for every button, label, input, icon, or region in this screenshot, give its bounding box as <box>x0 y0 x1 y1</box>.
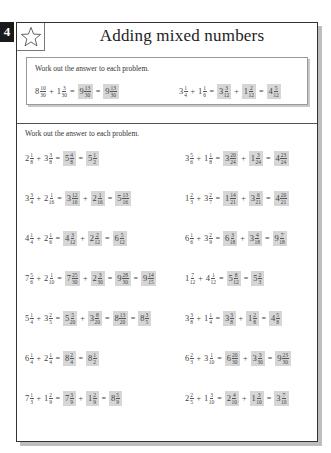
fraction: 2330 <box>282 352 289 365</box>
numerator: 7 <box>282 392 286 399</box>
fraction: 1330 <box>110 85 117 98</box>
denominator: 12 <box>233 279 239 285</box>
mixed-number: 356 <box>185 152 194 165</box>
denominator: 6 <box>49 239 52 245</box>
denominator: 9 <box>116 399 119 405</box>
plus-sign: + <box>49 87 54 96</box>
fraction: 56 <box>30 272 34 285</box>
numerator: 10 <box>40 85 47 92</box>
answer-box: 523 <box>251 271 264 286</box>
fraction: 1415 <box>148 272 155 285</box>
expression: 123+327=11421+3621=42021 <box>185 191 289 206</box>
whole-part: 3 <box>276 393 280 403</box>
whole-part: 1 <box>248 313 252 323</box>
mixed-number: 92330 <box>277 352 288 365</box>
plus-sign: + <box>240 234 245 243</box>
whole-part: 2 <box>44 233 48 243</box>
denominator: 8 <box>49 159 52 165</box>
fraction: 418 <box>255 232 261 245</box>
mixed-number: 214 <box>44 352 53 365</box>
problem: 756+2110=72530+2330=92830=91415 <box>25 267 156 286</box>
plus-sign: + <box>241 194 246 203</box>
mixed-number: 91415 <box>143 272 154 285</box>
denominator: 18 <box>255 239 261 245</box>
numerator: 5 <box>276 312 280 319</box>
fraction: 112 <box>211 272 217 285</box>
mixed-number: 327 <box>204 192 213 205</box>
denominator: 16 <box>49 199 55 205</box>
whole-part: 5 <box>25 313 29 323</box>
numerator: 1 <box>211 272 215 279</box>
denominator: 30 <box>97 279 103 285</box>
whole-part: 9 <box>80 86 84 96</box>
numerator: 2 <box>95 232 99 239</box>
whole-part: 2 <box>93 273 97 283</box>
whole-part: 3 <box>225 313 229 323</box>
denominator: 30 <box>111 92 117 98</box>
answer-box: 3418 <box>248 231 262 246</box>
mixed-number: 623 <box>185 352 194 365</box>
fraction: 116 <box>49 192 55 205</box>
numerator: 14 <box>148 272 155 279</box>
fraction: 16 <box>49 232 53 245</box>
whole-part: 3 <box>250 233 254 243</box>
mixed-number: 512 <box>88 152 97 165</box>
numerator: 23 <box>282 352 289 359</box>
fraction: 212 <box>95 232 101 245</box>
fraction: 1421 <box>230 192 237 205</box>
denominator: 10 <box>49 279 55 285</box>
denominator: 10 <box>256 399 262 405</box>
denominator: 6 <box>190 159 193 165</box>
mixed-number: 218 <box>25 152 34 165</box>
plus-sign: + <box>37 234 42 243</box>
fraction: 1330 <box>84 85 91 98</box>
whole-part: 1 <box>204 393 208 403</box>
denominator: 20 <box>70 319 76 325</box>
mixed-number: 81030 <box>35 85 46 98</box>
answer-box: 3820 <box>88 311 102 326</box>
mixed-number: 1212 <box>244 85 254 98</box>
numerator: 3 <box>230 312 234 319</box>
fraction: 59 <box>116 392 120 405</box>
numerator: 1 <box>209 152 213 159</box>
mixed-number: 314 <box>179 85 188 98</box>
whole-part: 4 <box>269 86 273 96</box>
mixed-number: 4112 <box>206 272 216 285</box>
problem-row: 614+214=824=812 623+3110=62030+3330=9233… <box>25 347 311 387</box>
mixed-number: 1712 <box>185 272 195 285</box>
numerator: 20 <box>280 192 287 199</box>
answer-box: 6512 <box>113 231 127 246</box>
denominator: 12 <box>273 92 279 98</box>
denominator: 21 <box>256 199 262 205</box>
whole-part: 3 <box>219 86 223 96</box>
mixed-number: 548 <box>65 152 74 165</box>
problem: 623+3110=62030+3330=92330 <box>185 347 291 366</box>
denominator: 8 <box>70 159 73 165</box>
fraction: 310 <box>209 392 215 405</box>
mixed-number: 325 <box>44 312 53 325</box>
numerator: 3 <box>258 352 262 359</box>
numerator: 3 <box>30 192 34 199</box>
answer-box: 42021 <box>274 191 289 206</box>
mixed-number: 2116 <box>44 192 54 205</box>
denominator: 3 <box>190 359 193 365</box>
denominator: 4 <box>30 239 33 245</box>
answer-box: 812 <box>86 351 99 366</box>
denominator: 6 <box>203 92 206 98</box>
whole-part: 3 <box>204 233 208 243</box>
numerator: 3 <box>225 85 229 92</box>
numerator: 2 <box>209 192 213 199</box>
whole-part: 9 <box>117 273 121 283</box>
numerator: 1 <box>184 85 188 92</box>
fraction: 14 <box>209 312 213 325</box>
answer-box: 92330 <box>275 351 290 366</box>
expression: 1712+4112=5812=523 <box>185 271 264 286</box>
answer-box: 3621 <box>249 191 263 206</box>
equals-sign: = <box>266 154 271 163</box>
plus-sign: + <box>80 314 85 323</box>
whole-part: 1 <box>185 273 189 283</box>
numerator: 4 <box>232 392 236 399</box>
fraction: 1216 <box>72 192 79 205</box>
fraction: 2021 <box>280 192 287 205</box>
answer-box: 5520 <box>63 311 77 326</box>
